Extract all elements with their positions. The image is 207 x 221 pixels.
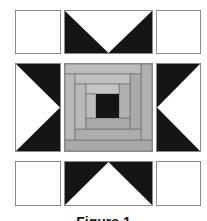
flying-geese-left xyxy=(15,63,61,152)
log-cabin-center xyxy=(64,63,153,152)
corner-square-top-left xyxy=(15,10,61,54)
figure-caption: Figure 1 xyxy=(0,214,207,221)
corner-square-bottom-right xyxy=(156,161,201,206)
flying-geese-top xyxy=(64,10,153,54)
corner-square-bottom-left xyxy=(15,161,61,206)
flying-geese-bottom xyxy=(64,161,153,206)
flying-geese-right xyxy=(156,63,201,152)
corner-square-top-right xyxy=(156,10,201,54)
